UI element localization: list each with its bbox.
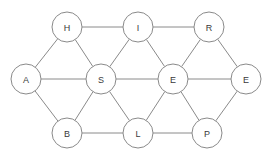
graph-edge-s-i — [110, 39, 130, 67]
graph-edge-p-e — [216, 91, 237, 121]
graph-node-i[interactable]: I — [123, 12, 153, 42]
graph-edge-e-p — [181, 92, 199, 121]
graph-edge-a-h — [35, 39, 57, 67]
graph-node-label-r: R — [206, 23, 213, 33]
graph-node-label-h: H — [64, 23, 71, 33]
graph-node-label-e2: E — [243, 75, 249, 85]
graph-node-label-i: I — [137, 23, 140, 33]
graph-node-label-a: A — [23, 75, 29, 85]
graph-edge-r-e — [218, 39, 238, 67]
graph-node-e2[interactable]: E — [231, 64, 261, 94]
graph-node-b[interactable]: B — [52, 118, 82, 148]
graph-edge-a-b — [35, 91, 58, 121]
graph-node-r[interactable]: R — [194, 12, 224, 42]
node-layer: HIRASEEBLP — [11, 12, 261, 148]
graph-node-p[interactable]: P — [192, 118, 222, 148]
graph-edge-b-s — [75, 92, 93, 121]
graph-svg-surface: HIRASEEBLP — [0, 0, 272, 157]
graph-node-label-l: L — [135, 129, 140, 139]
graph-node-e1[interactable]: E — [158, 64, 188, 94]
graph-node-a[interactable]: A — [11, 64, 41, 94]
graph-edge-s-l — [109, 91, 129, 120]
graph-edge-i-e — [146, 39, 164, 66]
graph-node-h[interactable]: H — [52, 12, 82, 42]
graph-node-label-b: B — [64, 129, 70, 139]
graph-node-label-p: P — [204, 129, 210, 139]
graph-node-label-s: S — [98, 75, 104, 85]
graph-edge-e-r — [182, 39, 201, 66]
graph-node-s[interactable]: S — [86, 64, 116, 94]
graph-node-l[interactable]: L — [123, 118, 153, 148]
graph-edge-h-s — [75, 40, 93, 67]
graph-diagram: HIRASEEBLP — [0, 0, 272, 157]
graph-edge-l-e — [146, 92, 165, 121]
graph-node-label-e1: E — [170, 75, 176, 85]
edge-layer — [35, 27, 237, 133]
